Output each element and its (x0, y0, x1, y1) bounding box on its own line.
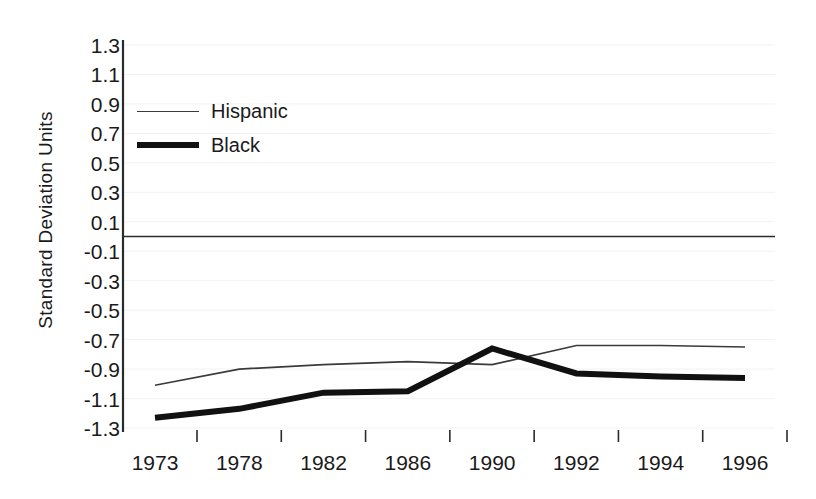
x-axis-tick-label: 1978 (216, 452, 263, 473)
legend-swatch-black (137, 142, 199, 148)
legend-item-black: Black (137, 128, 397, 162)
x-axis-tick-label: 1973 (132, 452, 179, 473)
x-axis-tick-labels: 19731978198219861990199219941996 (0, 0, 816, 499)
x-axis-tick-label: 1994 (637, 452, 684, 473)
chart-legend: Hispanic Black (137, 94, 397, 162)
x-axis-tick-label: 1996 (722, 452, 769, 473)
legend-swatch-hispanic (137, 111, 199, 112)
legend-label-black: Black (211, 135, 260, 155)
x-axis-tick-label: 1986 (384, 452, 431, 473)
x-axis-tick-label: 1992 (553, 452, 600, 473)
line-chart: Standard Deviation Units 1.31.10.90.70.5… (0, 0, 816, 499)
legend-label-hispanic: Hispanic (211, 101, 288, 121)
legend-item-hispanic: Hispanic (137, 94, 397, 128)
x-axis-tick-label: 1982 (300, 452, 347, 473)
x-axis-tick-label: 1990 (469, 452, 516, 473)
